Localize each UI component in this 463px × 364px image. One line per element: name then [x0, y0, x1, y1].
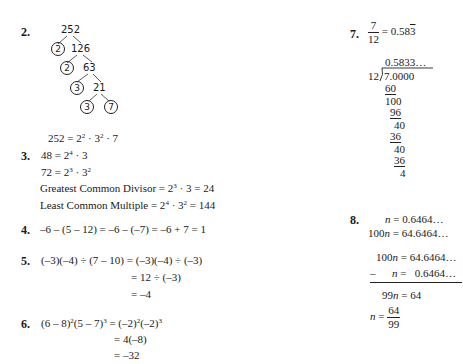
division-step: 96: [390, 107, 401, 119]
tree-factor-circle: 2: [60, 61, 74, 75]
tree-node-21: 21: [93, 82, 106, 93]
problem-6-line3: = –32: [114, 350, 139, 361]
subtraction-result: 99n = 64: [382, 290, 421, 301]
problem-3-line1: 48 = 24 · 3: [41, 150, 87, 161]
tree-root: 252: [61, 24, 80, 35]
problem-6-line2: = 4(–8): [114, 334, 147, 345]
problem-5-line1: (–3)(–4) ÷ (7 – 10) = (–3)(–4) ÷ (–3): [41, 255, 202, 266]
problem-6-line1: (6 – 8)2(5 – 7)3 = (–2)2(–2)3: [41, 318, 162, 329]
tree-factor-circle: 7: [104, 100, 118, 114]
subtraction-line1: 100n = 64.6464…: [376, 252, 456, 263]
problem-6-number: 6.: [21, 318, 30, 330]
problem-3-number: 3.: [21, 150, 30, 162]
problem-3-lcm: Least Common Multiple = 24 · 32 = 144: [40, 200, 215, 211]
problem-4-expression: –6 – (5 – 12) = –6 – (–7) = –6 + 7 = 1: [40, 224, 206, 235]
problem-4-number: 4.: [21, 224, 30, 236]
tree-node-63: 63: [83, 62, 96, 73]
problem-7-number: 7.: [350, 28, 359, 40]
division-step: 36: [394, 155, 405, 167]
tree-factor-circle: 3: [80, 100, 94, 114]
problem-2-result: 252 = 22 · 32 · 7: [48, 133, 118, 144]
long-division-dividend: 7.0000: [384, 71, 414, 82]
problem-5-line2: = 12 ÷ (–3): [131, 272, 181, 283]
subtraction-line2: – n = 0.6464…: [370, 268, 456, 279]
problem-3-gcd: Greatest Common Divisor = 23 · 3 = 24: [40, 183, 214, 194]
division-step: 36: [390, 131, 401, 143]
tree-factor-circle: 3: [70, 81, 84, 95]
problem-5-line3: = –4: [131, 289, 151, 300]
tree-node-126: 126: [71, 43, 90, 54]
problem-8-final: n = 6499: [370, 305, 400, 330]
division-remainder: 4: [400, 168, 406, 179]
problem-5-number: 5.: [21, 255, 30, 267]
tree-factor-circle: 2: [51, 42, 65, 56]
problem-3-line2: 72 = 23 · 32: [41, 167, 91, 178]
problem-8-line1: n = 0.6464…: [385, 214, 443, 225]
division-step: 60: [385, 83, 396, 95]
problem-8-line2: 100n = 64.6464…: [368, 228, 448, 239]
problem-8-number: 8.: [350, 214, 359, 226]
subtraction-rule: [370, 282, 462, 283]
problem-7-fraction: 712 = 0.583: [368, 20, 415, 45]
